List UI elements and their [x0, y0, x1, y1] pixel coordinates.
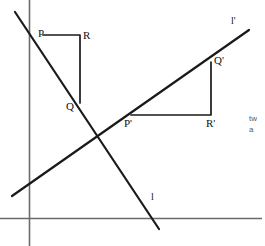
margin-note-line-2: a	[249, 124, 257, 135]
vertex-label-q-prime: Q'	[214, 55, 224, 66]
vertex-label-p-prime: P'	[124, 118, 132, 129]
line-label-l-prime: l'	[231, 16, 236, 26]
triangle-pqr	[43, 35, 80, 103]
vertex-label-r-prime: R'	[206, 118, 215, 129]
line-label-l: l	[151, 192, 154, 202]
line-l	[15, 12, 159, 229]
margin-note-line-1: tw	[249, 113, 257, 124]
vertex-label-p: P	[38, 28, 44, 39]
margin-note: tw a	[249, 113, 257, 135]
triangle-p-prime-q-prime-r-prime	[131, 62, 211, 115]
geometry-figure: P R Q P' R' Q' l l' tw a	[0, 0, 265, 246]
vertex-label-q: Q	[66, 101, 74, 112]
vertex-label-r: R	[83, 30, 90, 41]
